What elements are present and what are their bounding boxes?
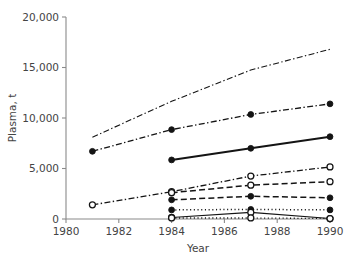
axis-lines: [66, 17, 330, 219]
x-tick-label: 1984: [158, 225, 185, 237]
data-point-filled: [169, 127, 175, 133]
line-chart: 05,00010,00015,00020,0001980198219841986…: [0, 0, 345, 261]
data-point-filled: [327, 134, 333, 140]
data-point-filled: [248, 193, 254, 199]
series-layer: [89, 49, 333, 221]
y-tick-label: 10,000: [22, 112, 59, 124]
data-point-open: [248, 215, 254, 221]
series-series-2-dashdot-filled: [90, 101, 333, 154]
y-tick-label: 15,000: [22, 61, 59, 73]
data-point-filled: [327, 101, 333, 107]
series-series-1-dashdot-nomarker: [92, 49, 330, 137]
data-point-open: [89, 202, 95, 208]
series-line: [92, 104, 330, 151]
data-point-filled: [327, 195, 333, 201]
series-series-3-solid-filled: [169, 134, 333, 163]
series-series-4-dashdot-open: [89, 164, 333, 208]
series-line: [92, 49, 330, 137]
y-axis-title: Plasma, t: [6, 94, 18, 143]
data-point-filled: [90, 148, 96, 154]
axis-layer: [62, 17, 330, 223]
y-tick-label: 20,000: [22, 11, 59, 23]
data-point-filled: [169, 207, 175, 213]
data-point-filled: [248, 145, 254, 151]
y-tick-label: 0: [52, 213, 59, 225]
data-point-open: [169, 190, 175, 196]
x-tick-label: 1986: [211, 225, 238, 237]
series-series-6-dashed-filled: [169, 193, 333, 202]
data-point-open: [327, 216, 333, 222]
data-point-filled: [169, 157, 175, 163]
data-point-filled: [327, 207, 333, 213]
series-line: [92, 167, 330, 205]
x-tick-label: 1980: [53, 225, 80, 237]
data-point-open: [248, 173, 254, 179]
x-tick-label: 1990: [317, 225, 344, 237]
x-tick-label: 1982: [105, 225, 132, 237]
data-point-filled: [169, 197, 175, 203]
chart-container: 05,00010,00015,00020,0001980198219841986…: [0, 0, 345, 261]
data-point-open: [327, 164, 333, 170]
data-point-filled: [248, 112, 254, 118]
data-point-open: [248, 182, 254, 188]
data-point-open: [169, 215, 175, 221]
x-axis-title: Year: [186, 242, 210, 254]
y-tick-label: 5,000: [29, 162, 59, 174]
data-point-open: [327, 179, 333, 185]
x-tick-label: 1988: [264, 225, 291, 237]
